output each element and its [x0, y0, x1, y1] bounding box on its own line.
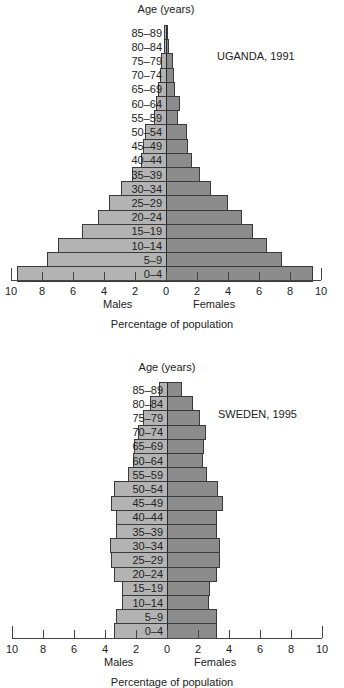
age-group-label: 80–84: [123, 397, 163, 411]
bar-females: [167, 396, 193, 411]
x-tick: [12, 626, 13, 638]
bar-females: [166, 82, 175, 97]
x-axis-title: Percentage of population: [0, 676, 344, 688]
bar-females: [167, 609, 217, 624]
age-group-label: 25–29: [122, 196, 162, 210]
x-tick-label: 10: [2, 643, 22, 655]
x-tick: [198, 630, 199, 638]
x-tick: [136, 630, 137, 638]
age-group-label: 65–69: [123, 439, 163, 453]
bar-females: [167, 467, 207, 482]
x-tick: [42, 272, 43, 280]
x-tick: [74, 630, 75, 638]
age-group-label: 45–49: [122, 139, 162, 153]
age-group-label: 40–44: [123, 510, 163, 524]
bar-females: [166, 53, 173, 68]
x-tick-label: 8: [281, 643, 301, 655]
bar-females: [166, 39, 169, 54]
age-group-label: 10–14: [123, 596, 163, 610]
bar-females: [166, 238, 267, 253]
males-label: Males: [104, 656, 133, 668]
y-axis-title: Age (years): [117, 361, 217, 373]
bar-females: [167, 567, 217, 582]
bar-females: [166, 195, 228, 210]
age-group-label: 20–24: [123, 567, 163, 581]
x-tick-label: 4: [94, 285, 114, 297]
age-group-label: 40–44: [122, 153, 162, 167]
age-group-label: 70–74: [122, 68, 162, 82]
x-tick-label: 10: [312, 643, 332, 655]
x-tick: [167, 630, 168, 638]
x-tick-label: 2: [188, 643, 208, 655]
bar-females: [167, 382, 182, 397]
x-tick: [43, 630, 44, 638]
bar-females: [166, 96, 180, 111]
x-tick-label: 6: [250, 643, 270, 655]
x-tick: [11, 268, 12, 280]
age-group-label: 80–84: [122, 40, 162, 54]
x-tick: [321, 268, 322, 280]
bar-females: [166, 124, 187, 139]
age-group-label: 35–39: [122, 168, 162, 182]
bar-females: [167, 623, 217, 638]
females-label: Females: [193, 298, 235, 310]
y-axis-title: Age (years): [116, 3, 216, 15]
age-group-label: 60–64: [122, 97, 162, 111]
x-axis-title: Percentage of population: [0, 318, 344, 330]
bar-females: [167, 552, 220, 567]
x-tick-label: 0: [157, 643, 177, 655]
x-tick: [73, 272, 74, 280]
age-group-label: 45–49: [123, 496, 163, 510]
bar-females: [167, 524, 217, 539]
x-tick-label: 8: [33, 643, 53, 655]
bar-females: [166, 153, 192, 168]
x-tick: [290, 272, 291, 280]
age-group-label: 30–34: [123, 539, 163, 553]
age-group-label: 75–79: [123, 411, 163, 425]
age-group-label: 50–54: [122, 125, 162, 139]
x-tick: [291, 630, 292, 638]
females-label: Females: [194, 656, 236, 668]
x-tick-label: 2: [126, 643, 146, 655]
x-tick: [228, 272, 229, 280]
age-group-label: 5–9: [123, 610, 163, 624]
x-tick: [197, 272, 198, 280]
bar-females: [167, 439, 204, 454]
age-group-label: 65–69: [122, 82, 162, 96]
bar-females: [167, 581, 210, 596]
x-tick: [260, 630, 261, 638]
bar-females: [167, 410, 200, 425]
age-group-label: 85–89: [122, 26, 162, 40]
x-tick: [259, 272, 260, 280]
x-tick: [166, 272, 167, 280]
x-axis: [11, 280, 321, 281]
bar-females: [167, 510, 217, 525]
x-tick-label: 6: [249, 285, 269, 297]
x-tick-label: 0: [156, 285, 176, 297]
x-tick-label: 8: [32, 285, 52, 297]
x-tick: [229, 630, 230, 638]
age-group-label: 70–74: [123, 425, 163, 439]
age-group-label: 55–59: [123, 468, 163, 482]
bar-females: [167, 538, 220, 553]
bar-females: [166, 139, 188, 154]
age-group-label: 55–59: [122, 111, 162, 125]
age-group-label: 0–4: [123, 624, 163, 638]
x-tick: [104, 272, 105, 280]
x-tick-label: 4: [95, 643, 115, 655]
bar-females: [166, 110, 178, 125]
x-tick-label: 4: [218, 285, 238, 297]
x-tick-label: 10: [311, 285, 331, 297]
bar-females: [166, 68, 174, 83]
x-tick-label: 6: [64, 643, 84, 655]
bar-females: [166, 167, 200, 182]
bar-females: [167, 496, 223, 511]
x-tick-label: 8: [280, 285, 300, 297]
age-group-label: 15–19: [123, 581, 163, 595]
bar-females: [166, 252, 282, 267]
x-tick-label: 6: [63, 285, 83, 297]
age-group-label: 5–9: [122, 253, 162, 267]
age-group-label: 25–29: [123, 553, 163, 567]
age-group-label: 15–19: [122, 224, 162, 238]
bar-females: [167, 453, 203, 468]
